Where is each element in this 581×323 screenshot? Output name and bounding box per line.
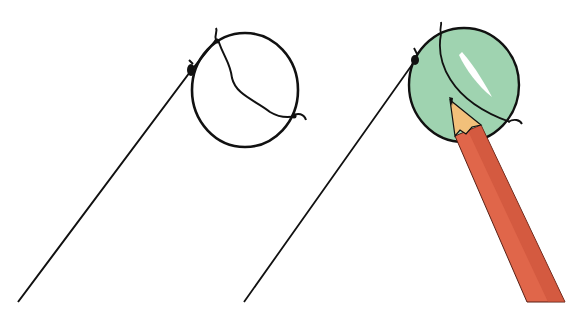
drawing-canvas: Step 1 - line art Step 2 - colored xyxy=(0,0,581,323)
knot xyxy=(187,64,195,76)
top-tuft xyxy=(215,28,216,40)
illustration-svg xyxy=(0,0,581,323)
step-1-line-art xyxy=(18,28,306,302)
string-line xyxy=(18,40,216,302)
red-pencil xyxy=(449,97,565,302)
ball-outline xyxy=(192,33,298,147)
